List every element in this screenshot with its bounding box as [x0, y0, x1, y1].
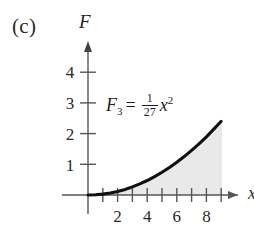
equation-lhs-symbol: F	[106, 95, 117, 115]
x-tick-label-4: 4	[143, 207, 152, 226]
fraction-denominator: 27	[142, 105, 158, 119]
equation-fraction: 127	[142, 92, 158, 118]
x-tick-label-2: 2	[113, 207, 122, 226]
y-tick-label-4: 4	[66, 63, 75, 82]
equation-equals-sign: =	[126, 95, 136, 115]
shaded-area-under-curve	[88, 121, 221, 195]
x-tick-label-8: 8	[202, 207, 211, 226]
y-axis-arrowhead	[84, 41, 92, 52]
equation-variable: x	[160, 95, 168, 115]
y-tick-label-1: 1	[66, 156, 75, 175]
y-tick-label-2: 2	[66, 125, 75, 144]
equation-exponent: 2	[168, 94, 174, 106]
y-tick-label-3: 3	[66, 94, 75, 113]
fraction-numerator: 1	[142, 92, 158, 105]
equation-lhs-subscript: 3	[117, 105, 123, 117]
x-axis-arrowhead	[228, 191, 238, 199]
x-tick-label-6: 6	[173, 207, 182, 226]
equation-annotation: F3=127x2	[106, 92, 173, 118]
figure-panel-c: (c) F x 1 2 3 4	[0, 0, 254, 234]
